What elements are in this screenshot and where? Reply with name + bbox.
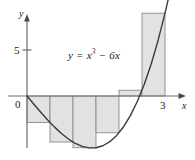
equation-rest: − 6x [99, 49, 120, 61]
y-tick-label-5: 5 [14, 44, 20, 56]
equation-lhs: y [68, 49, 73, 61]
equation-equals: = [76, 49, 84, 61]
x-tick-label-3: 3 [160, 99, 166, 111]
x-axis-arrow-icon [179, 93, 187, 99]
curve-equation-label: y = x3 − 6x [68, 47, 120, 61]
plot-canvas [0, 0, 195, 160]
y-axis-arrow-icon [24, 14, 30, 22]
y-axis-label: y [19, 8, 23, 19]
x-axis-label: x [182, 100, 186, 111]
equation-exponent: 3 [92, 47, 96, 56]
riemann-sum-figure: y x 5 0 3 y = x3 − 6x [0, 0, 195, 160]
riemann-rectangles-group [27, 13, 165, 148]
origin-label: 0 [15, 98, 21, 110]
riemann-rectangle [96, 96, 119, 133]
riemann-rectangle [119, 90, 142, 96]
riemann-rectangle [73, 96, 96, 148]
riemann-rectangle [50, 96, 73, 142]
